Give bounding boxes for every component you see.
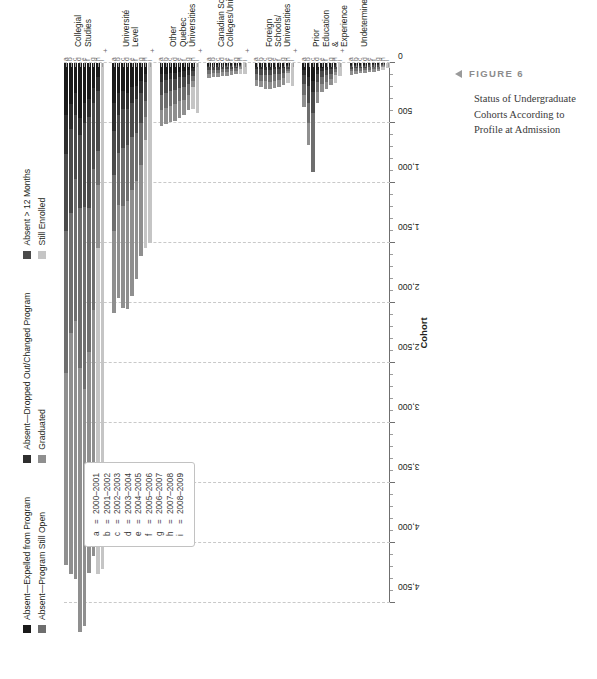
- bar-segment: [178, 88, 182, 101]
- axis-minor-tick: [390, 278, 393, 279]
- axis-minor-tick: [390, 350, 393, 351]
- cohort-tick-label: i: [194, 60, 200, 61]
- bar-segment: [126, 201, 130, 309]
- cohort-key-equals: =: [155, 518, 166, 525]
- axis-tick-label: 4,000: [398, 522, 420, 532]
- bar-segment: [311, 92, 315, 113]
- axis-tick: [390, 602, 395, 603]
- bar-segment: [112, 231, 116, 313]
- bar-segment: [87, 208, 91, 352]
- bar-segment: [96, 91, 100, 151]
- bar-segment: [320, 77, 324, 84]
- cohort-tick-mark: [318, 63, 319, 67]
- bar-segment: [139, 81, 143, 93]
- bar-segment: [144, 140, 148, 248]
- bar-row: [273, 63, 277, 603]
- triangle-marker-icon: [455, 70, 462, 78]
- bar-segment: [83, 63, 87, 103]
- bar-segment: [78, 118, 82, 135]
- bar-segment: [182, 87, 186, 100]
- bar-segment: [160, 110, 164, 126]
- axis-tick-label: 1,500: [398, 222, 420, 232]
- axis-minor-tick: [390, 578, 393, 579]
- bar-segment: [196, 63, 200, 113]
- axis-tick: [390, 62, 395, 63]
- bar-segment: [164, 80, 168, 93]
- bar-segment: [212, 73, 216, 77]
- value-axis-title: Cohort: [418, 63, 429, 603]
- bar-segment: [311, 113, 315, 172]
- cohort-tick-mark: [284, 63, 285, 67]
- cohort-tick-mark: [102, 63, 103, 67]
- bar-segment: [160, 74, 164, 81]
- bar-segment: [302, 95, 306, 107]
- bar-row: [291, 63, 295, 603]
- axis-minor-tick: [390, 110, 393, 111]
- cohort-tick-mark: [279, 63, 280, 67]
- bar-segment: [148, 63, 152, 243]
- axis-minor-tick: [390, 590, 393, 591]
- legend-item: Graduated: [37, 293, 47, 463]
- cohort-key-letter: b: [103, 529, 114, 536]
- cohort-tick-label: i: [337, 60, 343, 61]
- legend-item: Absent—Dropped Out/Changed Program: [22, 293, 32, 463]
- bar-segment: [234, 71, 238, 74]
- axis-tick-label: 0: [398, 51, 403, 61]
- bar-row: [338, 63, 342, 603]
- bar-segment: [83, 207, 87, 389]
- bar-segment: [350, 71, 354, 74]
- cohort-key-row: e=2004–2005: [134, 473, 145, 536]
- bar-segment: [74, 115, 78, 180]
- legend-label: Still Enrolled: [37, 198, 47, 246]
- group-separator-icon: +: [101, 48, 110, 53]
- cohort-tick-mark: [218, 63, 219, 67]
- bar-row: [243, 63, 247, 603]
- cohort-tick-mark: [245, 63, 246, 67]
- cohort-key-letter: d: [124, 529, 135, 536]
- figure-number-label: FIGURE 6: [469, 68, 524, 79]
- cohort-key-equals: =: [134, 518, 145, 525]
- cohort-tick-mark: [213, 63, 214, 67]
- legend-swatch-icon: [23, 625, 31, 633]
- cohort-tick-mark: [266, 63, 267, 67]
- cohort-tick-mark: [261, 63, 262, 67]
- category-axis: abcdefghiCollegial Studies+abcdefghiUniv…: [64, 1, 390, 63]
- legend-item: Absent > 12 Months: [22, 169, 32, 259]
- bar-segment: [173, 90, 177, 104]
- bar-segment: [334, 75, 338, 83]
- bar-segment: [69, 104, 73, 129]
- bar-segment: [112, 131, 116, 174]
- cohort-tick-mark: [270, 63, 271, 67]
- bar-segment: [359, 71, 363, 74]
- bar-segment: [307, 77, 311, 85]
- figure-caption-header: FIGURE 6: [455, 68, 583, 79]
- cohort-tick-mark: [361, 63, 362, 67]
- category-group-label: Foreign Schools/ Universities: [265, 1, 293, 47]
- bar-row: [230, 63, 234, 603]
- bar-segment: [144, 82, 148, 101]
- bar-segment: [187, 75, 191, 84]
- cohort-tick-mark: [179, 63, 180, 67]
- cohort-tick-mark: [193, 63, 194, 67]
- bar-segment: [96, 151, 100, 186]
- cohort-tick-mark: [188, 63, 189, 67]
- cohort-key-equals: =: [113, 518, 124, 525]
- cohort-tick-mark: [136, 63, 137, 67]
- bar-segment: [187, 95, 191, 109]
- cohort-key-years: 2003–2004: [124, 473, 135, 514]
- cohort-key-years: 2004–2005: [134, 473, 145, 514]
- cohort-tick-mark: [118, 63, 119, 67]
- cohort-key-letter: g: [155, 529, 166, 536]
- cohort-tick-label: i: [147, 60, 153, 61]
- bar-segment: [117, 115, 121, 153]
- cohort-tick-mark: [75, 63, 76, 67]
- axis-minor-tick: [390, 206, 393, 207]
- bar-segment: [316, 92, 320, 103]
- axis-minor-tick: [390, 266, 393, 267]
- axis-tick: [390, 422, 395, 423]
- cohort-tick-mark: [227, 63, 228, 67]
- cohort-key-years: 2000–2001: [92, 473, 103, 514]
- bar-row: [359, 63, 363, 603]
- bar-segment: [372, 69, 376, 71]
- axis-minor-tick: [390, 434, 393, 435]
